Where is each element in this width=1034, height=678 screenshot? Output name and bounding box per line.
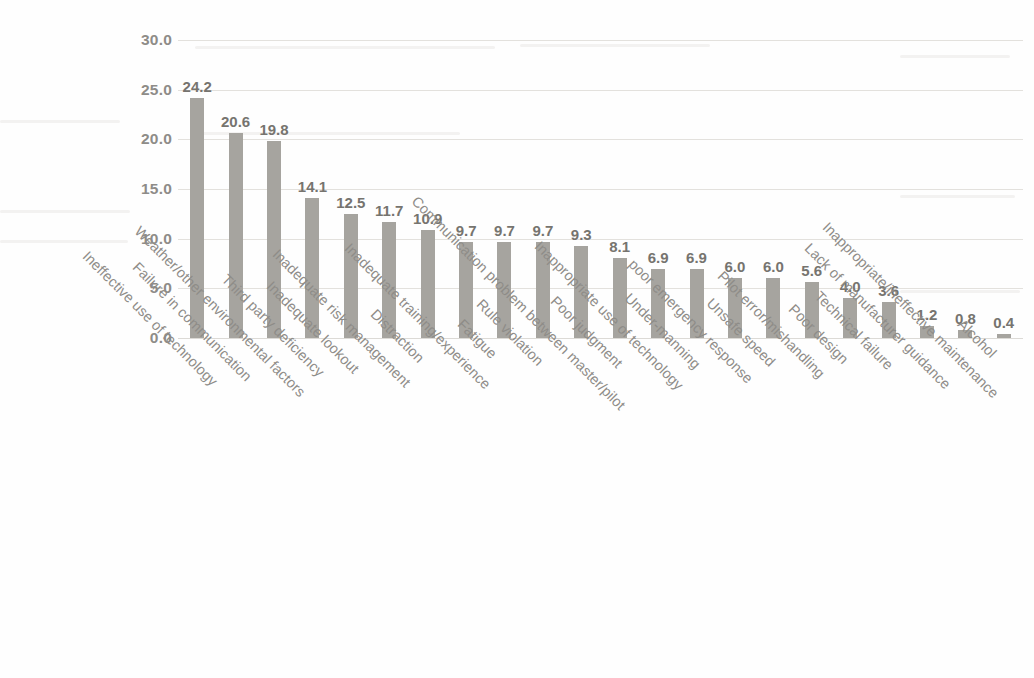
bar-slot: 0.4: [985, 40, 1023, 338]
bar-value-label: 6.9: [686, 249, 707, 266]
bar-value-label: 14.1: [298, 178, 327, 195]
bar-value-label: 6.0: [763, 258, 784, 275]
bar-value-label: 19.8: [259, 121, 288, 138]
x-axis-labels: Ineffective use of technologyFailure in …: [178, 344, 1023, 664]
bar-slot: 6.0: [754, 40, 792, 338]
bar-slot: 9.7: [524, 40, 562, 338]
bar-chart: 30.0 25.0 20.0 15.0 10.0 5.0 0.0 24.220.…: [0, 0, 1034, 678]
y-axis-tick-label: 25.0: [141, 81, 172, 99]
bar-slot: 0.8: [946, 40, 984, 338]
scan-artifact-line: [0, 240, 128, 243]
bar-slot: 12.5: [332, 40, 370, 338]
bar-value-label: 9.7: [494, 222, 515, 239]
scan-artifact-line: [0, 120, 120, 123]
bar[interactable]: [229, 133, 243, 338]
scan-artifact-text: [90, 12, 210, 29]
bar-slot: 1.2: [908, 40, 946, 338]
y-axis-tick-label: 20.0: [141, 130, 172, 148]
bar-value-label: 8.1: [609, 238, 630, 255]
y-axis-tick-label: 15.0: [141, 180, 172, 198]
bar[interactable]: [997, 334, 1011, 338]
bar-value-label: 6.9: [648, 249, 669, 266]
bar-slot: 10.9: [408, 40, 446, 338]
y-axis-tick-label: 30.0: [141, 31, 172, 49]
bar-value-label: 11.7: [375, 202, 403, 219]
bar-value-label: 9.7: [532, 222, 553, 239]
scan-artifact-line: [0, 210, 130, 213]
bar-value-label: 24.2: [183, 78, 212, 95]
bar-value-label: 9.3: [571, 226, 592, 243]
bar-value-label: 20.6: [221, 113, 250, 130]
bar[interactable]: [267, 141, 281, 338]
bar-value-label: 0.4: [993, 314, 1014, 331]
bar-value-label: 12.5: [336, 194, 365, 211]
bar-slot: 9.7: [447, 40, 485, 338]
bar-slot: 6.9: [677, 40, 715, 338]
